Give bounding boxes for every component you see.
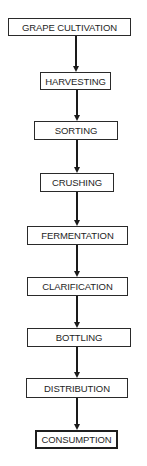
- step-harvesting: HARVESTING: [40, 72, 111, 90]
- step-distribution: DISTRIBUTION: [26, 378, 128, 398]
- step-label: FERMENTATION: [41, 230, 113, 241]
- step-label: SORTING: [55, 125, 97, 136]
- step-label: CONSUMPTION: [41, 434, 111, 445]
- step-bottling: BOTTLING: [27, 328, 131, 347]
- step-clarification: CLARIFICATION: [27, 277, 128, 296]
- step-label: CLARIFICATION: [42, 281, 112, 292]
- step-grape-cultivation: GRAPE CULTIVATION: [8, 18, 131, 36]
- step-label: DISTRIBUTION: [44, 383, 110, 394]
- step-label: CRUSHING: [52, 177, 102, 188]
- step-label: HARVESTING: [45, 76, 106, 87]
- step-fermentation: FERMENTATION: [27, 226, 128, 245]
- step-label: BOTTLING: [56, 332, 103, 343]
- step-consumption: CONSUMPTION: [35, 430, 118, 449]
- step-sorting: SORTING: [34, 121, 118, 140]
- step-crushing: CRUSHING: [40, 173, 114, 192]
- step-label: GRAPE CULTIVATION: [22, 22, 117, 33]
